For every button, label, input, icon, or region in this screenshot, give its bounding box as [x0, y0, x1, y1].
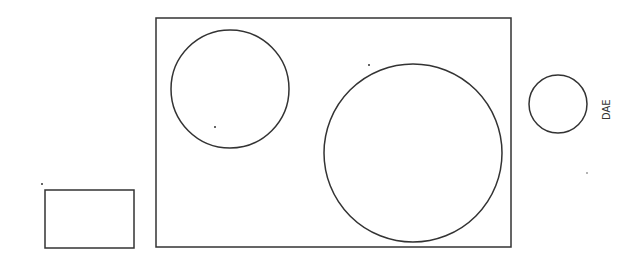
dot — [41, 183, 43, 185]
dot — [586, 172, 588, 174]
big-circle — [324, 64, 502, 242]
outer-rectangle — [156, 18, 511, 247]
small-circle — [529, 75, 587, 133]
dot — [214, 126, 216, 128]
small-rectangle — [45, 190, 134, 248]
dot — [368, 64, 370, 66]
left-circle — [171, 30, 289, 148]
diagram-canvas — [0, 0, 639, 267]
dae-label: DAE — [601, 99, 612, 120]
